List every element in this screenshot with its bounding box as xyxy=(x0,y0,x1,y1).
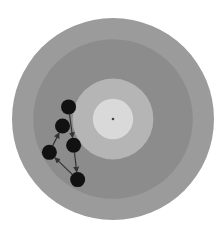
target-rings xyxy=(12,18,214,220)
shot-4 xyxy=(42,145,57,160)
shot-5 xyxy=(70,172,85,187)
center-mark xyxy=(112,118,115,121)
shot-3 xyxy=(66,138,81,153)
target-diagram xyxy=(0,0,224,231)
shot-2 xyxy=(55,119,70,134)
shot-1 xyxy=(61,99,76,114)
